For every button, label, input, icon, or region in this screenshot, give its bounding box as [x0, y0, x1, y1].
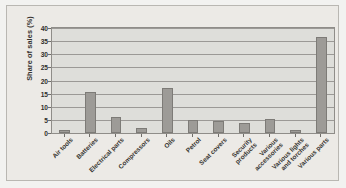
plot-area: [51, 27, 335, 134]
bar: [213, 121, 224, 133]
bar: [188, 120, 199, 133]
bar: [111, 117, 122, 133]
gridline-40: [52, 28, 334, 29]
y-tick-label-20: 20: [8, 77, 48, 84]
bar: [162, 88, 173, 133]
bar: [59, 130, 70, 133]
gridline-35: [52, 41, 334, 42]
bar: [265, 119, 276, 133]
y-tick-label-5: 5: [8, 116, 48, 123]
y-tick-label-40: 40: [8, 25, 48, 32]
bar: [239, 123, 250, 134]
y-tick-label-10: 10: [8, 103, 48, 110]
bar: [85, 92, 96, 133]
y-tick-label-15: 15: [8, 90, 48, 97]
x-axis-label-2: Electrical parts: [71, 136, 126, 188]
gridline-20: [52, 81, 334, 82]
chart-screenshot: Share of sales (%) 0510152025303540 Air …: [0, 0, 346, 188]
figure-frame: Share of sales (%) 0510152025303540 Air …: [6, 5, 339, 181]
gridline-25: [52, 67, 334, 68]
y-axis-tick-labels: 0510152025303540: [7, 27, 48, 134]
x-axis-label-5: Petrol: [148, 136, 203, 188]
bar: [136, 128, 147, 133]
x-axis-label-0: Air tools: [19, 136, 74, 188]
y-tick-label-0: 0: [8, 130, 48, 137]
y-tick-label-35: 35: [8, 38, 48, 45]
bar: [290, 130, 301, 133]
x-axis-category-labels: Air toolsBatteriesElectrical partsCompre…: [51, 136, 335, 188]
bar: [316, 37, 327, 133]
gridline-30: [52, 54, 334, 55]
y-tick-label-30: 30: [8, 51, 48, 58]
y-tick-label-25: 25: [8, 64, 48, 71]
